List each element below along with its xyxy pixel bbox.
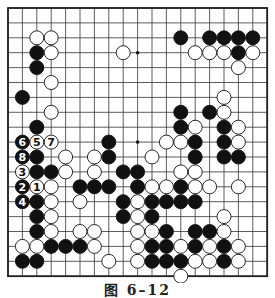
move-number: 2 — [19, 181, 27, 194]
white-stone — [87, 165, 101, 179]
black-stone — [231, 46, 245, 60]
white-stone — [159, 180, 173, 194]
white-stone — [145, 180, 159, 194]
white-stone — [188, 46, 202, 60]
white-stone — [87, 225, 101, 239]
black-stone — [30, 254, 44, 268]
black-stone — [159, 239, 173, 253]
black-stone — [30, 61, 44, 75]
move-number: 3 — [19, 166, 27, 179]
black-stone — [188, 150, 202, 164]
white-stone — [231, 120, 245, 134]
black-stone — [188, 195, 202, 209]
black-stone — [116, 195, 130, 209]
black-stone — [116, 210, 130, 224]
white-stone — [159, 135, 173, 149]
white-stone — [15, 239, 29, 253]
black-stone — [131, 165, 145, 179]
black-stone — [174, 105, 188, 119]
white-stone: 7 — [44, 135, 58, 149]
black-stone — [145, 254, 159, 268]
white-stone — [217, 46, 231, 60]
black-stone — [30, 165, 44, 179]
figure-caption: 图 6–12 — [0, 283, 275, 297]
black-stone — [217, 120, 231, 134]
black-stone — [30, 210, 44, 224]
white-stone — [44, 105, 58, 119]
white-stone — [217, 90, 231, 104]
white-stone: 5 — [30, 135, 44, 149]
white-stone — [203, 239, 217, 253]
white-stone — [131, 225, 145, 239]
white-stone — [231, 239, 245, 253]
black-stone — [231, 150, 245, 164]
black-stone — [116, 165, 130, 179]
black-stone — [217, 239, 231, 253]
white-stone — [87, 150, 101, 164]
black-stone — [246, 31, 260, 45]
white-stone — [44, 180, 58, 194]
black-stone — [15, 254, 29, 268]
black-stone — [188, 135, 202, 149]
white-stone — [44, 76, 58, 90]
black-stone — [203, 31, 217, 45]
black-stone — [217, 150, 231, 164]
white-stone — [145, 225, 159, 239]
black-stone — [188, 225, 202, 239]
white-stone — [217, 105, 231, 119]
black-stone: 4 — [15, 195, 29, 209]
white-stone — [231, 254, 245, 268]
move-number: 8 — [19, 151, 27, 164]
black-stone — [217, 31, 231, 45]
move-number: 4 — [19, 196, 27, 209]
white-stone — [131, 239, 145, 253]
black-stone — [203, 225, 217, 239]
black-stone — [102, 180, 116, 194]
white-stone — [59, 150, 73, 164]
black-stone — [174, 195, 188, 209]
white-stone — [44, 210, 58, 224]
black-stone — [59, 239, 73, 253]
white-stone — [217, 225, 231, 239]
black-stone — [174, 254, 188, 268]
black-stone — [44, 165, 58, 179]
black-stone — [30, 46, 44, 60]
move-number: 5 — [33, 136, 41, 149]
black-stone — [30, 195, 44, 209]
black-stone — [159, 225, 173, 239]
black-stone — [145, 239, 159, 253]
black-stone — [73, 180, 87, 194]
black-stone — [102, 135, 116, 149]
black-stone — [73, 239, 87, 253]
white-stone — [174, 165, 188, 179]
white-stone — [231, 61, 245, 75]
white-stone — [73, 195, 87, 209]
black-stone — [145, 210, 159, 224]
move-number: 7 — [47, 136, 55, 149]
black-stone — [131, 180, 145, 194]
black-stone: 6 — [15, 135, 29, 149]
black-stone — [159, 195, 173, 209]
white-stone — [246, 46, 260, 60]
white-stone — [102, 254, 116, 268]
black-stone — [30, 120, 44, 134]
black-stone — [217, 135, 231, 149]
black-stone — [231, 31, 245, 45]
white-stone — [174, 269, 188, 283]
go-board: 12345678 — [0, 0, 275, 283]
white-stone — [131, 195, 145, 209]
white-stone — [231, 180, 245, 194]
black-stone: 8 — [15, 150, 29, 164]
white-stone — [188, 165, 202, 179]
black-stone — [188, 239, 202, 253]
black-stone — [174, 31, 188, 45]
white-stone — [203, 46, 217, 60]
white-stone: 1 — [30, 180, 44, 194]
white-stone — [188, 180, 202, 194]
black-stone — [217, 254, 231, 268]
black-stone — [30, 225, 44, 239]
black-stone — [87, 180, 101, 194]
white-stone — [203, 254, 217, 268]
white-stone — [44, 31, 58, 45]
star-point — [136, 51, 140, 55]
